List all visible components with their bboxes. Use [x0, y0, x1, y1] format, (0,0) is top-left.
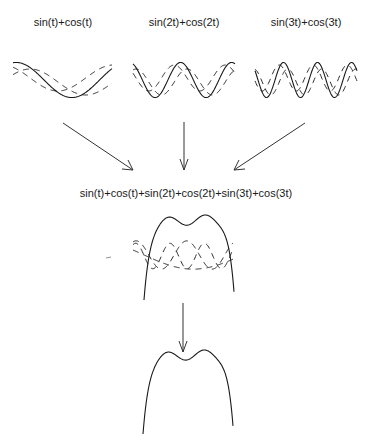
component-plot-3: [255, 62, 357, 97]
result-solid-curve: [143, 350, 233, 434]
arrow-component-3-to-sum: [234, 123, 305, 170]
component-label-3: sin(3t)+cos(3t): [271, 16, 342, 28]
component-label-1: sin(t)+cos(t): [34, 16, 92, 28]
component-label-2: sin(2t)+cos(2t): [149, 16, 220, 28]
component-plot-1: [13, 62, 112, 97]
component-2-solid-curve: [133, 62, 235, 97]
component-3-dashed-cos: [255, 65, 357, 91]
arrow-sum-to-result: [179, 303, 187, 352]
sum-label: sin(t)+cos(t)+sin(2t)+cos(2t)+sin(3t)+co…: [80, 187, 292, 199]
arrow-shaft: [234, 123, 305, 170]
sum-solid-curve: [144, 215, 234, 300]
diagram-canvas: sin(t)+cos(t) sin(2t)+cos(2t) sin(3t)+co…: [0, 0, 367, 444]
result-plot: [143, 350, 233, 434]
arrow-component-1-to-sum: [63, 123, 133, 170]
sum-plot-overlay: [106, 215, 234, 300]
component-3-dashed-sin: [255, 69, 357, 95]
arrow-component-2-to-sum: [180, 122, 188, 170]
arrow-shaft: [63, 123, 133, 170]
component-plot-2: [133, 62, 235, 97]
stray-mark: [106, 257, 111, 258]
